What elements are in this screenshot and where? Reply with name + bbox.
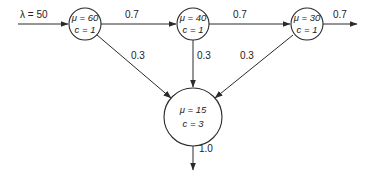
arrival-edge: λ = 50 [18, 9, 68, 24]
node-1: μ = 60 c = 1 [69, 8, 101, 40]
edge-n3-n4: 0.3 [215, 35, 293, 98]
node-service-rate: μ = 30 [293, 12, 321, 23]
edge-label: 0.7 [125, 9, 139, 20]
node-service-rate: μ = 40 [179, 12, 207, 23]
node-servers: c = 1 [297, 24, 318, 35]
edge-n2-n3: 0.7 [209, 9, 290, 24]
edge-n2-n4: 0.3 [193, 40, 211, 87]
edge-n4-exit: 1.0 [193, 143, 213, 170]
arrival-rate-label: λ = 50 [20, 9, 48, 20]
node-3: μ = 30 c = 1 [291, 8, 323, 40]
node-service-rate: μ = 15 [179, 104, 207, 115]
node-4: μ = 15 c = 3 [164, 88, 222, 146]
edge-n1-n4: 0.3 [97, 35, 171, 98]
edge-n3-exit: 0.7 [323, 9, 357, 24]
node-2: μ = 40 c = 1 [177, 8, 209, 40]
node-servers: c = 3 [183, 118, 205, 129]
edge-label: 0.7 [333, 9, 347, 20]
node-service-rate: μ = 60 [71, 12, 99, 23]
edge-label: 0.3 [131, 50, 145, 61]
edge-label: 0.3 [197, 50, 211, 61]
edge-label: 0.3 [240, 50, 254, 61]
edge-n1-n2: 0.7 [101, 9, 176, 24]
edge-label: 0.7 [233, 9, 247, 20]
queueing-network-diagram: λ = 50 0.7 0.7 0.7 0.3 0.3 0.3 [0, 0, 377, 177]
node-servers: c = 1 [75, 24, 96, 35]
node-servers: c = 1 [183, 24, 204, 35]
